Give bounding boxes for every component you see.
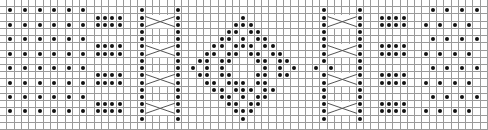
grid-cell bbox=[284, 14, 291, 21]
grid-cell bbox=[58, 7, 65, 14]
purl-dot-cell bbox=[401, 22, 408, 29]
grid-cell bbox=[153, 51, 160, 58]
purl-dot-cell bbox=[102, 14, 109, 21]
grid-cell bbox=[430, 87, 437, 94]
grid-cell bbox=[473, 29, 480, 36]
grid-cell bbox=[233, 94, 240, 101]
purl-dot-cell bbox=[401, 79, 408, 86]
purl-dot-cell bbox=[357, 22, 364, 29]
grid-cell bbox=[255, 116, 262, 123]
grid-cell bbox=[401, 116, 408, 123]
grid-cell bbox=[248, 79, 255, 86]
grid-cell bbox=[269, 72, 276, 79]
grid-cell bbox=[364, 101, 371, 108]
grid-cell bbox=[0, 123, 7, 130]
grid-cell bbox=[415, 108, 422, 115]
grid-cell bbox=[473, 43, 480, 50]
grid-cell bbox=[350, 72, 357, 79]
grid-cell bbox=[255, 87, 262, 94]
purl-dot-cell bbox=[219, 87, 226, 94]
grid-cell bbox=[320, 123, 327, 130]
grid-cell bbox=[299, 94, 306, 101]
purl-dot-cell bbox=[320, 58, 327, 65]
purl-dot-cell bbox=[175, 79, 182, 86]
grid-cell bbox=[437, 87, 444, 94]
purl-dot-cell bbox=[328, 65, 335, 72]
grid-cell bbox=[197, 94, 204, 101]
grid-cell bbox=[22, 29, 29, 36]
grid-cell bbox=[415, 65, 422, 72]
purl-dot-cell bbox=[175, 87, 182, 94]
grid-cell bbox=[36, 72, 43, 79]
purl-dot-cell bbox=[240, 87, 247, 94]
grid-cell bbox=[415, 116, 422, 123]
grid-cell bbox=[401, 0, 408, 7]
grid-cell bbox=[299, 29, 306, 36]
purl-dot-cell bbox=[138, 43, 145, 50]
purl-dot-cell bbox=[109, 14, 116, 21]
grid-cell bbox=[240, 123, 247, 130]
grid-cell bbox=[197, 108, 204, 115]
purl-dot-cell bbox=[80, 7, 87, 14]
purl-dot-cell bbox=[379, 43, 386, 50]
grid-cell bbox=[168, 22, 175, 29]
purl-dot-cell bbox=[248, 43, 255, 50]
purl-dot-cell bbox=[102, 43, 109, 50]
grid-cell bbox=[437, 94, 444, 101]
grid-cell bbox=[255, 7, 262, 14]
grid-cell bbox=[197, 43, 204, 50]
grid-cell bbox=[422, 116, 429, 123]
grid-cell bbox=[466, 72, 473, 79]
grid-cell bbox=[481, 14, 488, 21]
grid-cell bbox=[211, 101, 218, 108]
grid-cell bbox=[284, 29, 291, 36]
purl-dot-cell bbox=[240, 108, 247, 115]
grid-cell bbox=[415, 123, 422, 130]
grid-cell bbox=[284, 22, 291, 29]
grid-cell bbox=[15, 94, 22, 101]
grid-cell bbox=[371, 123, 378, 130]
grid-cell bbox=[299, 123, 306, 130]
purl-dot-cell bbox=[51, 94, 58, 101]
grid-cell bbox=[313, 72, 320, 79]
purl-dot-cell bbox=[95, 108, 102, 115]
grid-cell bbox=[124, 101, 131, 108]
grid-cell bbox=[393, 0, 400, 7]
grid-cell bbox=[255, 108, 262, 115]
grid-cell bbox=[306, 58, 313, 65]
grid-cell bbox=[189, 79, 196, 86]
grid-cell bbox=[102, 7, 109, 14]
grid-cell bbox=[284, 36, 291, 43]
grid-cell bbox=[284, 94, 291, 101]
grid-cell bbox=[204, 108, 211, 115]
grid-cell bbox=[284, 0, 291, 7]
grid-cell bbox=[459, 108, 466, 115]
grid-cell bbox=[51, 29, 58, 36]
grid-cell bbox=[277, 87, 284, 94]
grid-cell bbox=[342, 43, 349, 50]
grid-cell bbox=[109, 29, 116, 36]
purl-dot-cell bbox=[357, 116, 364, 123]
grid-cell bbox=[328, 7, 335, 14]
grid-cell bbox=[357, 0, 364, 7]
grid-cell bbox=[328, 79, 335, 86]
grid-cell bbox=[160, 22, 167, 29]
grid-cell bbox=[481, 58, 488, 65]
grid-cell bbox=[379, 87, 386, 94]
grid-cell bbox=[473, 72, 480, 79]
grid-cell bbox=[313, 87, 320, 94]
grid-cell bbox=[153, 108, 160, 115]
grid-cell bbox=[160, 7, 167, 14]
grid-cell bbox=[102, 94, 109, 101]
grid-cell bbox=[379, 94, 386, 101]
grid-cell bbox=[7, 87, 14, 94]
grid-cell bbox=[189, 101, 196, 108]
grid-cell bbox=[328, 101, 335, 108]
purl-dot-cell bbox=[138, 101, 145, 108]
grid-cell bbox=[95, 116, 102, 123]
grid-cell bbox=[87, 65, 94, 72]
grid-cell bbox=[473, 123, 480, 130]
purl-dot-cell bbox=[102, 101, 109, 108]
grid-cell bbox=[66, 116, 73, 123]
grid-cell bbox=[80, 116, 87, 123]
